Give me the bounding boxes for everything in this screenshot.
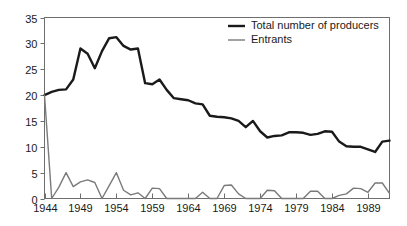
x-axis-tick-label: 1989 [356, 202, 380, 214]
legend-label-total-producers: Total number of producers [251, 19, 379, 31]
x-axis-tick-label: 1984 [320, 202, 344, 214]
chart-container: 05101520253035 1944194919541959196419691… [0, 0, 407, 226]
x-axis-tick-label: 1964 [176, 202, 200, 214]
y-axis-tick-label: 35 [25, 13, 37, 25]
line-chart: 05101520253035 1944194919541959196419691… [0, 0, 407, 226]
y-axis-ticks [41, 19, 45, 200]
series-line-entrants [45, 95, 390, 198]
x-axis-tick-label: 1944 [33, 202, 57, 214]
x-axis-tick-label: 1969 [212, 202, 236, 214]
x-axis-tick-label: 1974 [248, 202, 272, 214]
series-line-total-producers [45, 37, 390, 152]
y-axis-tick-label: 5 [31, 168, 37, 180]
x-axis-tick-label: 1959 [140, 202, 164, 214]
y-axis-tick-label: 25 [25, 64, 37, 76]
y-axis-tick-label: 10 [25, 142, 37, 154]
x-axis-tick-label: 1949 [68, 202, 92, 214]
chart-legend: Total number of producersEntrants [228, 19, 379, 45]
data-series-group [45, 37, 390, 198]
x-axis-tick-label: 1954 [104, 202, 128, 214]
plot-frame [45, 18, 390, 199]
y-axis-labels: 05101520253035 [25, 13, 37, 206]
x-axis-labels: 1944194919541959196419691974197919841989 [33, 202, 380, 214]
y-axis-tick-label: 30 [25, 38, 37, 50]
y-axis-tick-label: 20 [25, 90, 37, 102]
y-axis-tick-label: 15 [25, 116, 37, 128]
x-axis-tick-label: 1979 [284, 202, 308, 214]
legend-label-entrants: Entrants [251, 33, 292, 45]
